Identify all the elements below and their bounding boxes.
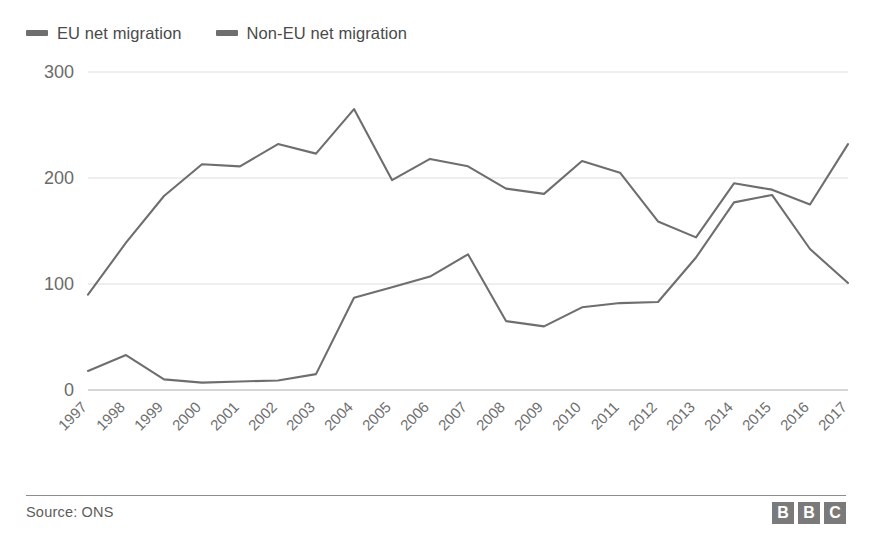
x-axis-tick-label: 1997 bbox=[55, 398, 91, 434]
x-axis-tick-label: 2010 bbox=[549, 398, 585, 434]
footer-divider bbox=[26, 495, 846, 496]
x-axis-tick-label: 2005 bbox=[359, 398, 395, 434]
x-axis-tick-label: 2015 bbox=[739, 398, 775, 434]
y-axis-tick-label: 0 bbox=[64, 380, 74, 400]
x-axis-tick-label: 2009 bbox=[511, 398, 547, 434]
bbc-logo-block-3: C bbox=[824, 502, 846, 524]
x-axis-tick-label: 2013 bbox=[663, 398, 699, 434]
gridlines bbox=[88, 72, 848, 390]
x-axis-tick-label: 1998 bbox=[93, 398, 129, 434]
x-axis-tick-label: 2016 bbox=[777, 398, 813, 434]
x-axis-tick-label: 2003 bbox=[283, 398, 319, 434]
migration-line-chart: EU net migration Non-EU net migration 01… bbox=[0, 0, 872, 544]
plot-area: 0100200300 19971998199920002001200220032… bbox=[0, 0, 872, 480]
x-axis-tick-label: 2011 bbox=[587, 398, 622, 433]
x-axis-tick-label: 2000 bbox=[169, 398, 205, 434]
x-axis-tick-label: 2001 bbox=[207, 398, 243, 434]
x-axis-tick-label: 2006 bbox=[397, 398, 433, 434]
x-axis-tick-label: 2002 bbox=[245, 398, 281, 434]
bbc-logo-block-1: B bbox=[772, 502, 794, 524]
y-axis-tick-label: 200 bbox=[44, 168, 74, 188]
y-axis-ticks: 0100200300 bbox=[44, 62, 74, 400]
y-axis-tick-label: 100 bbox=[44, 274, 74, 294]
chart-footer: Source: ONS B B C bbox=[0, 480, 872, 544]
x-axis-tick-label: 1999 bbox=[131, 398, 167, 434]
x-axis-tick-label: 2017 bbox=[815, 398, 851, 434]
x-axis-tick-label: 2007 bbox=[435, 398, 471, 434]
bbc-logo-block-2: B bbox=[798, 502, 820, 524]
source-attribution: Source: ONS bbox=[26, 504, 114, 520]
x-axis-tick-label: 2012 bbox=[625, 398, 661, 434]
chart-canvas: 0100200300 19971998199920002001200220032… bbox=[0, 0, 872, 480]
x-axis-ticks: 1997199819992000200120022003200420052006… bbox=[55, 398, 851, 434]
bbc-logo: B B C bbox=[772, 502, 846, 524]
x-axis-tick-label: 2004 bbox=[321, 398, 357, 434]
series-line-eu bbox=[88, 195, 848, 383]
x-axis-tick-label: 2014 bbox=[701, 398, 737, 434]
y-axis-tick-label: 300 bbox=[44, 62, 74, 82]
data-series bbox=[88, 109, 848, 382]
x-axis-tick-label: 2008 bbox=[473, 398, 509, 434]
